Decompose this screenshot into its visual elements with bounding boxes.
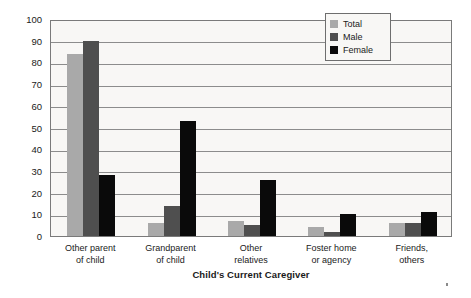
y-axis-tick-label: 80 [0, 58, 42, 68]
bar-total-3 [308, 227, 324, 236]
gridline [51, 107, 451, 108]
bar-male-4 [405, 223, 421, 236]
y-axis-tick-label: 50 [0, 124, 42, 134]
gridline [51, 129, 451, 130]
x-axis-category-label: Otherrelatives [211, 243, 291, 266]
gridline [51, 151, 451, 152]
plot-area [50, 20, 452, 237]
chart-legend: TotalMaleFemale [325, 13, 391, 61]
bar-total-0 [67, 54, 83, 236]
legend-label-female: Female [343, 45, 373, 55]
x-axis-category-label: Foster homeor agency [291, 243, 371, 266]
y-axis-tick-label: 20 [0, 189, 42, 199]
bar-male-1 [164, 206, 180, 236]
y-axis-tick-label: 100 [0, 15, 42, 25]
y-axis-tick-label: 30 [0, 167, 42, 177]
bar-total-4 [389, 223, 405, 236]
gridline [51, 42, 451, 43]
bar-male-3 [324, 232, 340, 236]
bar-male-0 [83, 41, 99, 236]
bar-male-2 [244, 225, 260, 236]
x-axis-category-label: Other parentof child [50, 243, 130, 266]
gridline [51, 64, 451, 65]
x-axis-category-label: Friends,others [372, 243, 452, 266]
legend-swatch-female [330, 46, 338, 54]
legend-label-total: Total [343, 19, 362, 29]
bar-total-1 [148, 223, 164, 236]
bar-female-4 [421, 212, 437, 236]
y-axis-tick-label: 70 [0, 80, 42, 90]
y-axis-tick-label: 0 [0, 232, 42, 242]
legend-item-total: Total [330, 18, 385, 30]
y-axis-tick-label: 60 [0, 102, 42, 112]
legend-item-male: Male [330, 31, 385, 43]
chart-page: Percentage of Children 01020304050607080… [0, 0, 471, 298]
y-axis-tick-label: 90 [0, 37, 42, 47]
y-axis-tick-label: 40 [0, 145, 42, 155]
gridline [51, 172, 451, 173]
legend-swatch-male [330, 33, 338, 41]
bar-female-1 [180, 121, 196, 236]
y-axis-tick-label: 10 [0, 210, 42, 220]
legend-item-female: Female [330, 44, 385, 56]
bar-total-2 [228, 221, 244, 236]
x-axis-title: Child's Current Caregiver [50, 269, 452, 280]
x-axis-category-label: Grandparentof child [130, 243, 210, 266]
gridline [51, 86, 451, 87]
legend-label-male: Male [343, 32, 363, 42]
legend-swatch-total [330, 20, 338, 28]
bar-female-3 [340, 214, 356, 236]
page-speck [446, 283, 448, 286]
bar-female-2 [260, 180, 276, 236]
bar-female-0 [99, 175, 115, 236]
